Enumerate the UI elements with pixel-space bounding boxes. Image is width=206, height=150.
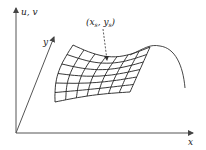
- surface-diagram: u, v y x (xs, ys): [0, 0, 206, 150]
- pointer-arrow: [103, 29, 107, 60]
- vertical-axis-label: u, v: [21, 7, 38, 17]
- point-label: (xs, ys): [86, 17, 116, 28]
- depth-axis: [16, 37, 54, 133]
- horizontal-axis-label: x: [188, 137, 193, 147]
- surface-mesh: [55, 45, 150, 102]
- depth-axis-label: y: [42, 37, 49, 47]
